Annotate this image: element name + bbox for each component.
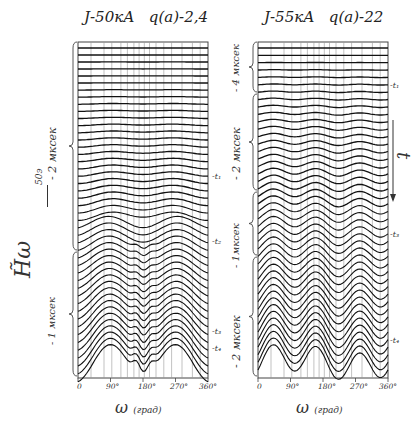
left-brace-label-top: - 2 мксек xyxy=(46,127,59,180)
left-xtick-180: 180° xyxy=(138,382,156,391)
right-brace-4 xyxy=(249,257,257,376)
left-waterfall-plot xyxy=(78,42,208,382)
waterfall-plots xyxy=(0,0,417,424)
right-brace-label-2: - 2 мксек xyxy=(230,127,243,180)
y-scale-bar xyxy=(47,185,48,207)
left-xtick-90: 90° xyxy=(106,382,119,391)
y-scale-label: 50э xyxy=(34,169,44,186)
right-xtick-180: 180° xyxy=(318,382,336,391)
left-t-marker-2: -t₂ xyxy=(212,237,221,246)
left-brace-label-bottom: - 1 мксек xyxy=(46,297,57,345)
left-brace-top xyxy=(69,42,77,250)
right-x-axis-label: ω (град) xyxy=(296,398,343,417)
right-brace-3 xyxy=(249,192,257,255)
left-t-marker-3: -t₃ xyxy=(212,327,221,336)
right-x-omega: ω xyxy=(296,398,309,417)
left-xtick-0: 0 xyxy=(77,382,82,391)
right-t-marker-3: -t₃ xyxy=(390,230,399,239)
y-axis-symbol: H̃ω xyxy=(10,241,35,278)
right-xtick-270: 270° xyxy=(350,382,368,391)
left-xtick-360: 360° xyxy=(199,382,217,391)
y-axis-label: H̃ω xyxy=(10,241,35,278)
time-arrow-label: t xyxy=(393,152,414,159)
left-xtick-270: 270° xyxy=(170,382,188,391)
right-waterfall-plot xyxy=(258,42,388,382)
right-xtick-0: 0 xyxy=(257,382,262,391)
right-x-unit: (град) xyxy=(314,405,342,415)
right-brace-label-1: - 4 мксек xyxy=(230,44,241,92)
left-x-axis-label: ω (град) xyxy=(115,398,162,417)
right-t-marker-4: -t₄ xyxy=(390,336,399,345)
left-x-unit: (град) xyxy=(133,405,161,415)
left-t-marker-4: -t₄ xyxy=(212,344,221,353)
right-xtick-360: 360° xyxy=(379,382,397,391)
left-t-marker-1: -t₁ xyxy=(212,172,221,181)
right-xtick-90: 90° xyxy=(286,382,299,391)
right-brace-2 xyxy=(249,94,257,190)
right-brace-1 xyxy=(249,42,257,92)
left-x-omega: ω xyxy=(115,398,128,417)
right-brace-label-3: - 1мксек xyxy=(230,223,241,268)
right-t-marker-1: -t₁ xyxy=(390,81,399,90)
y-scale-value: 50э xyxy=(34,169,44,186)
left-brace-bottom xyxy=(69,252,77,376)
right-brace-label-4: - 2 мксек xyxy=(230,315,243,368)
time-arrow-head-icon xyxy=(390,194,396,202)
